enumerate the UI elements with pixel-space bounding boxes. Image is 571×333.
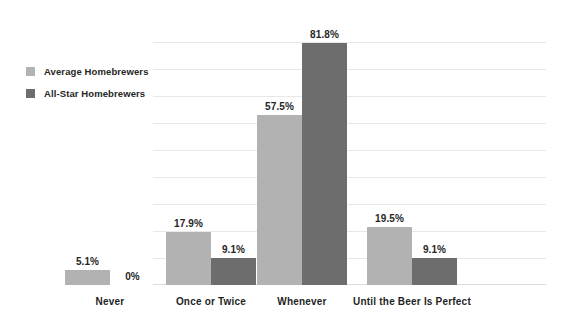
bar-value-label: 81.8%: [310, 29, 339, 40]
bar-slot: 19.5%: [367, 42, 412, 285]
bar-slot: 9.1%: [412, 42, 457, 285]
bar[interactable]: [211, 258, 256, 285]
plot-area: 5.1%0%17.9%9.1%57.5%81.8%19.5%9.1%: [153, 42, 546, 285]
bar[interactable]: [257, 115, 302, 285]
bar-group: 57.5%81.8%: [257, 42, 347, 285]
bar-slot: 9.1%: [211, 42, 256, 285]
bar[interactable]: [412, 258, 457, 285]
bar-group: 5.1%0%: [65, 42, 155, 285]
bar-slot: 0%: [110, 42, 155, 285]
bar[interactable]: [302, 43, 347, 285]
bar[interactable]: [166, 232, 211, 285]
bar-value-label: 9.1%: [222, 244, 245, 255]
bar-group: 17.9%9.1%: [166, 42, 256, 285]
bar-value-label: 9.1%: [423, 244, 446, 255]
bar-slot: 81.8%: [302, 42, 347, 285]
bar[interactable]: [65, 270, 110, 285]
bar-value-label: 17.9%: [174, 218, 203, 229]
bar-chart: Average Homebrewers All-Star Homebrewers…: [0, 0, 571, 333]
bar-value-label: 57.5%: [265, 101, 294, 112]
x-axis-label: Never: [96, 296, 125, 307]
bar-groups: 5.1%0%17.9%9.1%57.5%81.8%19.5%9.1%: [0, 42, 546, 285]
x-axis-label: Whenever: [277, 296, 326, 307]
bar-group: 19.5%9.1%: [367, 42, 457, 285]
x-axis-label: Until the Beer Is Perfect: [353, 296, 471, 307]
bar-value-label: 19.5%: [375, 213, 404, 224]
bar-slot: 57.5%: [257, 42, 302, 285]
bar-slot: 17.9%: [166, 42, 211, 285]
x-axis-label: Once or Twice: [176, 296, 246, 307]
bar-value-label: 5.1%: [76, 256, 99, 267]
bar-value-label: 0%: [125, 271, 140, 282]
x-axis-labels: NeverOnce or TwiceWheneverUntil the Beer…: [0, 296, 571, 316]
bar[interactable]: [367, 227, 412, 285]
bar-slot: 5.1%: [65, 42, 110, 285]
